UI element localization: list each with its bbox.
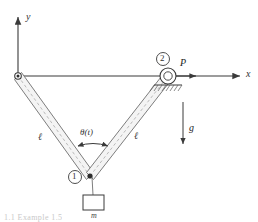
angle-theta-label: θ(t)	[80, 128, 93, 137]
linkage-diagram	[0, 0, 258, 222]
figure-container: y x P g θ(t) ℓ ℓ m 1 2 1.1 Example 1.5	[0, 0, 258, 222]
link-bar-left	[15, 73, 94, 180]
node-two-label: 2	[160, 54, 165, 63]
angle-arrow	[78, 144, 108, 147]
gravity-g-label: g	[189, 123, 194, 133]
length-label-right: ℓ	[134, 131, 138, 141]
figure-caption: 1.1 Example 1.5	[4, 213, 62, 222]
link-bar-right	[87, 73, 172, 180]
node-one-label: 1	[72, 172, 77, 181]
mass-label: m	[91, 212, 97, 220]
y-axis-label: y	[26, 12, 30, 22]
x-axis-label: x	[246, 69, 250, 79]
length-label-left: ℓ	[38, 132, 42, 142]
force-p-label: P	[180, 58, 186, 68]
pin-joint-left	[15, 73, 22, 80]
mass-hanger	[83, 177, 104, 210]
